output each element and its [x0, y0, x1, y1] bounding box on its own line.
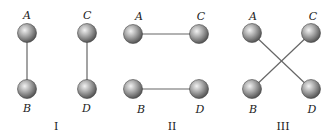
ball-A: [124, 25, 143, 44]
ball-C: [190, 25, 209, 44]
panel-III: A C B D III: [243, 10, 321, 133]
ball-A: [18, 24, 37, 43]
label-A: A: [134, 10, 143, 23]
panel-I: A B C D I: [18, 9, 97, 133]
panel-II: A C B D II: [124, 10, 209, 133]
panel-label-III: III: [276, 120, 289, 133]
ball-B: [124, 80, 143, 99]
label-C: C: [83, 9, 92, 22]
label-D: D: [81, 102, 91, 115]
ball-C: [302, 24, 321, 43]
three-configurations-diagram: A B C D I A C B D II A C B D III: [0, 0, 336, 137]
panel-label-I: I: [54, 120, 58, 133]
ball-D: [78, 80, 97, 99]
ball-D: [190, 80, 209, 99]
label-A: A: [22, 9, 31, 22]
panel-label-II: II: [168, 120, 177, 133]
label-D: D: [307, 103, 317, 116]
label-B: B: [22, 102, 31, 115]
label-C: C: [197, 10, 206, 23]
label-C: C: [309, 10, 318, 23]
ball-A: [243, 24, 262, 43]
ball-C: [78, 24, 97, 43]
ball-B: [18, 80, 37, 99]
ball-B: [243, 80, 262, 99]
ball-D: [302, 80, 321, 99]
label-B: B: [136, 103, 145, 116]
label-A: A: [248, 10, 257, 23]
label-D: D: [195, 103, 205, 116]
label-B: B: [248, 103, 257, 116]
